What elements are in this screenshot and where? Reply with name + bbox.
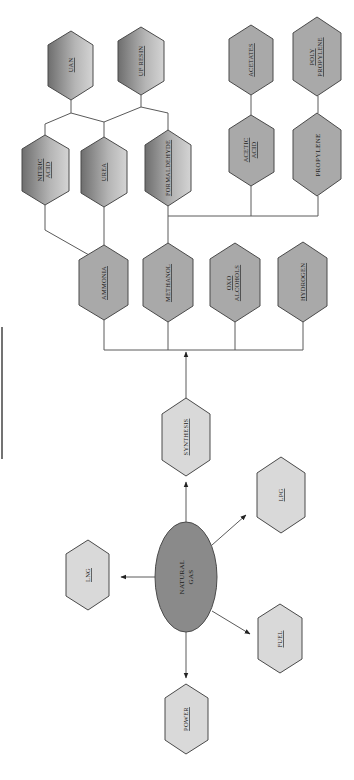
- label-natural-gas-2: GAS: [187, 570, 195, 585]
- label-ammonia: AMMONIA: [100, 266, 107, 300]
- label-oxo-alcohols-1: OXO: [225, 276, 232, 291]
- label-fuel: FUEL: [276, 630, 283, 647]
- node-oxo-alcohols[interactable]: OXO ALCOHOLS: [210, 243, 260, 322]
- node-hydrogen[interactable]: HYDROGEN: [278, 242, 327, 322]
- label-nitric-acid-1: NITRIC: [36, 159, 43, 182]
- label-acetic-acid-2: ACID: [250, 142, 257, 159]
- node-lng[interactable]: LNG: [66, 540, 109, 610]
- node-uan[interactable]: UAN: [48, 31, 93, 100]
- node-polypropylene[interactable]: POLY PROPYLENE: [293, 17, 341, 96]
- label-uf-resin: UF RESIN: [137, 46, 144, 76]
- edge-to-fuel: [212, 611, 250, 634]
- node-lpg[interactable]: LPG: [257, 457, 305, 533]
- label-methanol: METHANOL: [164, 264, 171, 302]
- node-acetates[interactable]: ACETATES: [229, 25, 273, 95]
- label-polypropylene-1: POLY: [308, 48, 315, 65]
- label-lng: LNG: [84, 568, 91, 582]
- node-propylene[interactable]: PROPYLENE: [293, 113, 341, 196]
- label-oxo-alcohols-2: ALCOHOLS: [233, 265, 240, 301]
- label-hydrogen: HYDROGEN: [299, 263, 306, 301]
- node-ammonia[interactable]: AMMONIA: [79, 245, 128, 320]
- label-synthesis: SYNTHESIS: [182, 418, 189, 455]
- label-acetates: ACETATES: [247, 43, 254, 77]
- node-acetic-acid[interactable]: ACETIC ACID: [229, 115, 274, 186]
- label-propylene: PROPYLENE: [314, 133, 322, 176]
- label-urea: UREA: [100, 163, 107, 182]
- node-formaldehyde[interactable]: FORMALDEHYDE: [145, 130, 191, 206]
- node-natural-gas[interactable]: NATURAL GAS: [155, 522, 217, 632]
- label-polypropylene-2: PROPYLENE: [316, 37, 323, 76]
- node-methanol[interactable]: METHANOL: [143, 243, 193, 322]
- edge-to-lpg: [212, 515, 246, 545]
- node-power[interactable]: POWER: [165, 684, 208, 754]
- label-natural-gas-1: NATURAL: [178, 560, 186, 595]
- node-synthesis[interactable]: SYNTHESIS: [162, 398, 210, 476]
- label-acetic-acid-1: ACETIC: [242, 138, 249, 163]
- label-power: POWER: [182, 707, 189, 731]
- node-urea[interactable]: UREA: [81, 137, 127, 207]
- label-lpg: LPG: [277, 488, 284, 501]
- natural-gas-diagram: UAN UF RESIN ACETATES POLY PROPYLENE NIT…: [0, 0, 354, 780]
- node-nitric-acid[interactable]: NITRIC ACID: [22, 135, 69, 205]
- label-nitric-acid-2: ACID: [44, 162, 51, 179]
- label-uan: UAN: [67, 58, 74, 73]
- label-formaldehyde: FORMALDEHYDE: [164, 140, 171, 196]
- node-fuel[interactable]: FUEL: [258, 604, 302, 673]
- node-uf-resin[interactable]: UF RESIN: [118, 27, 164, 95]
